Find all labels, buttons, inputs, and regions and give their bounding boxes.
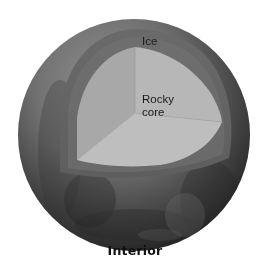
ice-label: Ice: [142, 35, 157, 47]
core-label-line2: core: [142, 106, 164, 118]
diagram-caption: Interior: [0, 243, 270, 258]
planet-interior-diagram: Ice Rocky core: [0, 0, 270, 261]
core-label-line1: Rocky: [142, 93, 174, 105]
